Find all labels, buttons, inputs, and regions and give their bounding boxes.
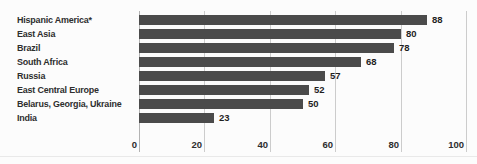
x-tick-label: 40 xyxy=(234,139,268,151)
value-label: 88 xyxy=(432,15,443,25)
category-label: East Central Europe xyxy=(17,85,99,95)
value-label: 68 xyxy=(366,57,377,67)
x-tick-label: 100 xyxy=(430,139,464,151)
bar xyxy=(139,43,394,53)
bar xyxy=(139,99,303,109)
gridline xyxy=(401,11,402,152)
category-label: Russia xyxy=(17,71,45,81)
value-label: 52 xyxy=(314,85,325,95)
gridline xyxy=(466,11,467,152)
category-label: South Africa xyxy=(17,57,68,67)
bar xyxy=(139,71,325,81)
bar xyxy=(139,15,427,25)
x-tick-label: 60 xyxy=(299,139,333,151)
value-label: 78 xyxy=(399,43,410,53)
bar xyxy=(139,113,214,123)
bar xyxy=(139,57,361,67)
bottom-rule xyxy=(0,156,477,157)
value-label: 50 xyxy=(308,99,319,109)
x-tick-label: 20 xyxy=(168,139,202,151)
category-label: East Asia xyxy=(17,29,55,39)
bar xyxy=(139,85,309,95)
category-label: India xyxy=(17,113,37,123)
x-tick-label: 0 xyxy=(103,139,137,151)
value-label: 23 xyxy=(219,113,230,123)
x-tick-label: 80 xyxy=(365,139,399,151)
category-label: Hispanic America* xyxy=(17,15,92,25)
category-label: Belarus, Georgia, Ukraine xyxy=(17,99,122,109)
category-label: Brazil xyxy=(17,43,40,53)
bar xyxy=(139,29,401,39)
bar-chart: Hispanic America*88East Asia80Brazil78So… xyxy=(0,0,477,164)
value-label: 80 xyxy=(406,29,417,39)
value-label: 57 xyxy=(330,71,341,81)
